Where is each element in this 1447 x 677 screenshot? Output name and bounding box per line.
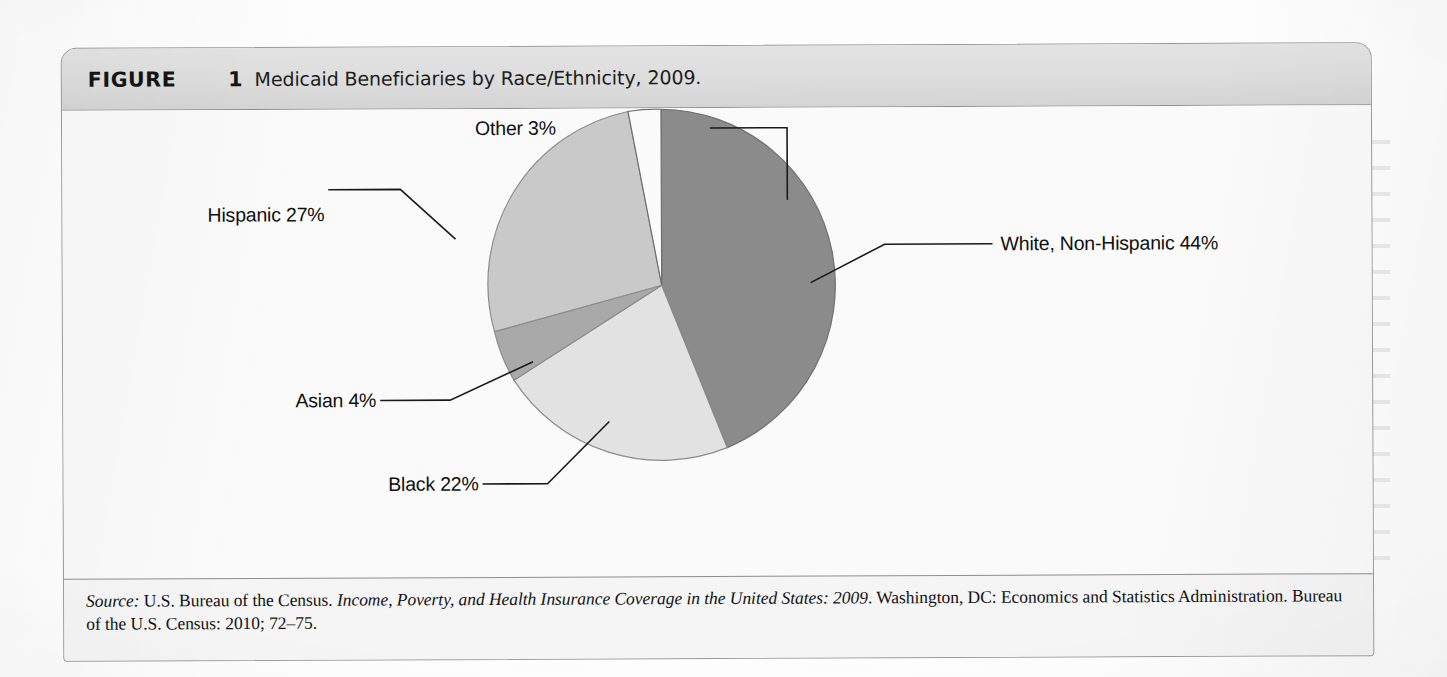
pie-chart-svg [62, 105, 1372, 579]
pie-label-white-non-hispanic: White, Non-Hispanic 44% [1000, 231, 1218, 255]
figure-body: Other 3% Hispanic 27% Asian 4% Black 22%… [62, 105, 1373, 579]
figure-container: FIGURE 1 Medicaid Beneficiaries by Race/… [61, 42, 1375, 662]
figure-label: FIGURE [88, 67, 177, 91]
source-prefix: Source: [86, 591, 140, 611]
leader-line-hispanic [328, 189, 455, 240]
pie-label-asian: Asian 4% [295, 389, 376, 412]
pie-label-hispanic: Hispanic 27% [208, 203, 325, 227]
source-publication-title: Income, Poverty, and Health Insurance Co… [337, 587, 868, 609]
figure-title: Medicaid Beneficiaries by Race/Ethnicity… [255, 66, 702, 90]
pie-label-black: Black 22% [388, 473, 478, 496]
source-text-part1: U.S. Bureau of the Census. [139, 590, 336, 611]
scanned-page: FIGURE 1 Medicaid Beneficiaries by Race/… [0, 0, 1447, 677]
figure-header-bar: FIGURE 1 Medicaid Beneficiaries by Race/… [62, 43, 1371, 111]
figure-footer: Source: U.S. Bureau of the Census. Incom… [64, 573, 1373, 661]
figure-number: 1 [228, 67, 242, 91]
source-caption: Source: U.S. Bureau of the Census. Incom… [86, 584, 1351, 636]
pie-label-other: Other 3% [475, 117, 556, 140]
leader-line-white-non-hispanic [811, 244, 993, 283]
pie-chart: Other 3% Hispanic 27% Asian 4% Black 22%… [62, 105, 1373, 579]
